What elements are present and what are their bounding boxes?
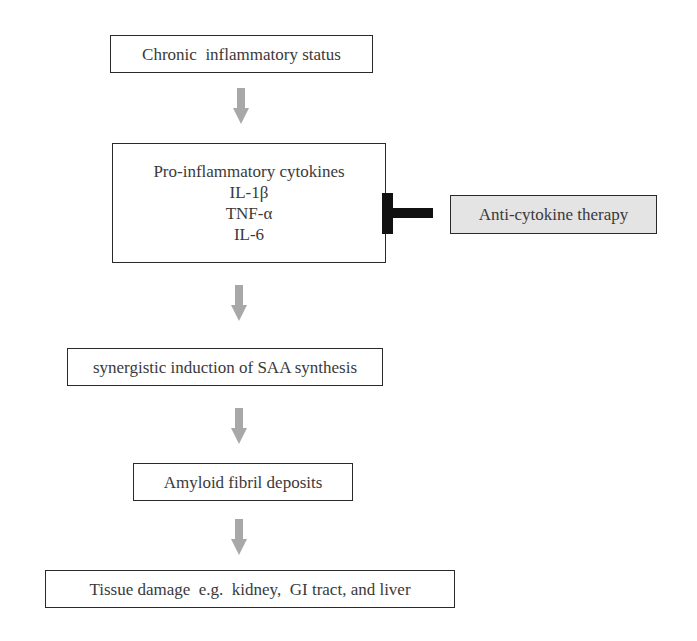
node-label: Anti-cytokine therapy [479,204,629,225]
inhibition-line [392,208,433,218]
node-label: Amyloid fibril deposits [164,472,323,493]
node-anti-cytokine-therapy: Anti-cytokine therapy [450,195,657,234]
node-label: Tissue damage e.g. kidney, GI tract, and… [89,579,410,600]
node-amyloid-fibril-deposits: Amyloid fibril deposits [133,463,353,501]
down-arrow-icon [231,408,247,444]
down-arrow-icon [233,88,249,124]
cytokine-il1b: IL-1β [230,182,269,203]
down-arrow-icon [231,285,247,321]
node-saa-synthesis: synergistic induction of SAA synthesis [67,348,383,386]
node-label: Chronic inflammatory status [142,44,341,65]
node-pro-inflammatory-cytokines: Pro-inflammatory cytokines IL-1β TNF-α I… [112,143,386,263]
node-chronic-inflammatory-status: Chronic inflammatory status [110,35,373,73]
cytokine-tnfa: TNF-α [226,203,273,224]
node-title: Pro-inflammatory cytokines [153,161,344,182]
down-arrow-icon [231,519,247,555]
cytokine-il6: IL-6 [234,224,264,245]
node-label: synergistic induction of SAA synthesis [93,357,357,378]
node-tissue-damage: Tissue damage e.g. kidney, GI tract, and… [45,570,455,608]
